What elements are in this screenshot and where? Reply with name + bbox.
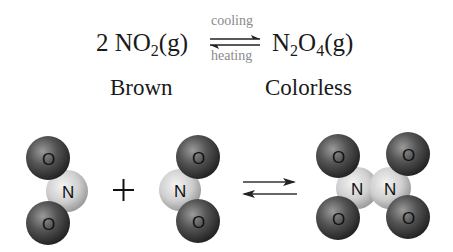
atom-o: O bbox=[402, 146, 415, 165]
reactant-color-label: Brown bbox=[110, 76, 173, 99]
atom-n: N bbox=[351, 180, 363, 199]
product-subscript-a: 2 bbox=[290, 42, 298, 59]
product-state: (g) bbox=[324, 29, 353, 56]
atom-n: N bbox=[62, 183, 74, 202]
atom-n: N bbox=[384, 180, 396, 199]
atom-o: O bbox=[332, 210, 345, 229]
atom-o: O bbox=[192, 149, 205, 168]
diagram-graphics: O N O O N O O O N N O O bbox=[0, 0, 453, 252]
plus-icon bbox=[113, 179, 134, 201]
molecule-equilibrium-arrow-icon bbox=[242, 178, 297, 198]
atom-n: N bbox=[174, 182, 186, 201]
product-subscript-b: 4 bbox=[316, 42, 324, 59]
product-formula: N2O4(g) bbox=[272, 30, 353, 55]
product-color-label: Colorless bbox=[265, 76, 352, 99]
atom-o: O bbox=[192, 213, 205, 232]
atom-o: O bbox=[402, 209, 415, 228]
no2-molecule-right: O N O bbox=[159, 135, 220, 243]
product-formula-a: N bbox=[272, 29, 290, 56]
atom-o: O bbox=[332, 148, 345, 167]
product-formula-b: O bbox=[298, 29, 316, 56]
atom-o: O bbox=[42, 150, 55, 169]
n2o4-molecule: O O N N O O bbox=[316, 132, 430, 240]
no2-molecule-left: O N O bbox=[26, 136, 88, 245]
atom-o: O bbox=[42, 215, 55, 234]
equation-equilibrium-arrow-icon bbox=[210, 35, 260, 49]
